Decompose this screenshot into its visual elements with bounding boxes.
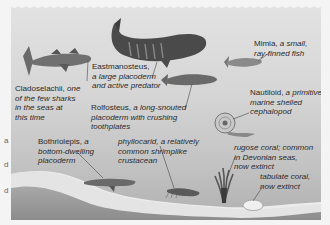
margin-letter: d xyxy=(4,186,8,195)
label-phyllocarid: phyllocarid, a relatively common shrimpl… xyxy=(118,137,199,166)
margin-letter: a xyxy=(4,136,8,145)
margin-letter: d xyxy=(4,160,8,169)
label-tabulate-coral: tabulate coral, now extinct xyxy=(260,172,310,191)
label-rugose-coral: rugose coral; common in Devonian seas, n… xyxy=(234,143,313,172)
scalloped-edge xyxy=(0,0,330,10)
cladoselachii-shark-icon xyxy=(23,46,91,81)
label-cladoselachii: Cladoselachii, one of the few sharks in … xyxy=(15,84,80,122)
label-nautiloid: Nautiloid, a primitive marine shelled ce… xyxy=(250,88,321,117)
label-bothriolepis: Bothriolepis, a bottom-dwelling placoder… xyxy=(38,137,94,166)
rugose-coral-icon xyxy=(215,157,235,203)
label-mimia: Mimia, a small, ray-finned fish xyxy=(254,39,307,58)
label-rolfosteus: Rolfosteus, a long-snouted placoderm wit… xyxy=(91,103,186,132)
devonian-sea-illustration: Cladoselachii, one of the few sharks in … xyxy=(11,6,321,220)
nautiloid-icon xyxy=(215,113,255,137)
label-eastmanosteus: Eastmanosteus, a large placoderm and act… xyxy=(92,62,161,91)
